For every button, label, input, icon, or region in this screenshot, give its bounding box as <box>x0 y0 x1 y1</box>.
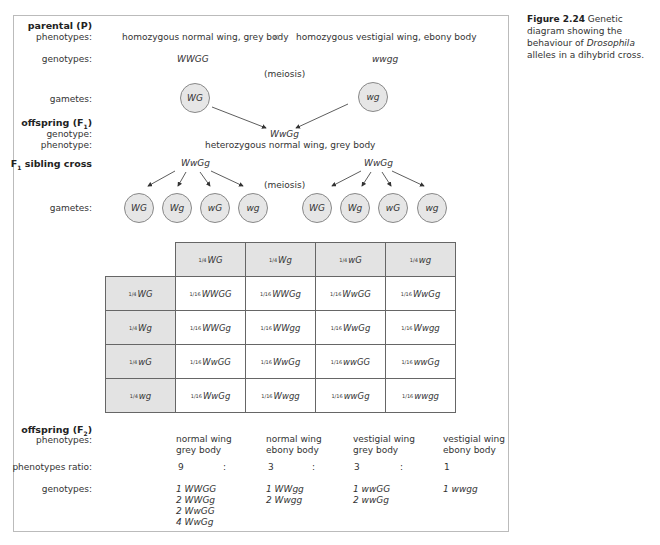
gamete-circle-parent2: wg <box>358 82 388 112</box>
meiosis-label-1: (meiosis) <box>264 69 305 80</box>
f2-class2-ratio: 3 <box>354 462 360 473</box>
f2-class0-genotype-2: 2 WwGG <box>176 506 215 517</box>
f2-class0-genotype-3: 4 WwGg <box>176 517 214 528</box>
gametes-label-2: gametes: <box>0 203 92 214</box>
f2-class2-genotype-0: 1 wwGG <box>353 484 390 495</box>
f2-class3-phenotype-2: ebony body <box>443 445 496 456</box>
punnett-cell: 1/16Wwgg <box>386 311 456 345</box>
gamete-right-0: WG <box>302 193 332 223</box>
f2-phenotypes-label: phenotypes: <box>0 435 92 446</box>
f1-genotype: WwGg <box>270 129 299 140</box>
f2-class3-genotype-0: 1 wwgg <box>443 484 478 495</box>
punnett-cell: 1/16WwGg <box>316 311 386 345</box>
punnett-cell: 1/16WwGg <box>246 345 316 379</box>
row-header-2: 1/4wG <box>106 345 176 379</box>
f2-class0-phenotype-2: grey body <box>176 445 221 456</box>
row-header-1: 1/4Wg <box>106 311 176 345</box>
punnett-cell: 1/16wwGg <box>386 345 456 379</box>
figure-number: Figure 2.24 <box>527 14 585 24</box>
punnett-row: 1/4WG 1/16WWGG 1/16WWGg 1/16WwGG 1/16WwG… <box>106 277 456 311</box>
gametes-label-1: gametes: <box>0 94 92 105</box>
f1-genotype-label: genotype: <box>0 129 92 140</box>
col-header-3: 1/4wg <box>386 243 456 277</box>
punnett-cell: 1/16wwGg <box>316 379 386 413</box>
f2-class3-ratio: 1 <box>444 462 450 473</box>
gamete-right-1: Wg <box>340 193 370 223</box>
punnett-row: 1/4Wg 1/16WWGg 1/16WWgg 1/16WwGg 1/16Wwg… <box>106 311 456 345</box>
f2-ratio-label: phenotypes ratio: <box>0 462 92 473</box>
figure-caption: Figure 2.24 Genetic diagram showing the … <box>527 13 659 61</box>
caption-text-2: alleles in a dihybrid cross. <box>527 50 644 60</box>
ratio-sep-0: : <box>223 462 226 473</box>
sibling-cross-heading: F1 sibling cross <box>0 158 92 173</box>
punnett-header-row: 1/4WG 1/4Wg 1/4wG 1/4wg <box>106 243 456 277</box>
punnett-cell: 1/16WwGg <box>176 379 246 413</box>
f2-class1-phenotype-1: normal wing <box>266 434 322 445</box>
f2-class1-genotype-1: 2 Wwgg <box>266 495 302 506</box>
punnett-cell: 1/16WWGg <box>176 311 246 345</box>
f2-genotypes-label: genotypes: <box>0 484 92 495</box>
gamete-left-0: WG <box>124 193 154 223</box>
col-header-2: 1/4wG <box>316 243 386 277</box>
punnett-row: 1/4wg 1/16WwGg 1/16Wwgg 1/16wwGg 1/16wwg… <box>106 379 456 413</box>
gamete-left-3: wg <box>238 193 268 223</box>
meiosis-label-2: (meiosis) <box>264 180 305 191</box>
sibling-left-parent: WwGg <box>181 158 210 169</box>
sibling-right-parent: WwGg <box>364 158 393 169</box>
punnett-cell: 1/16WWGG <box>176 277 246 311</box>
col-header-1: 1/4Wg <box>246 243 316 277</box>
ratio-sep-1: : <box>312 462 315 473</box>
f2-class1-genotype-0: 1 WWgg <box>266 484 304 495</box>
parental-heading: parental (P) <box>0 20 92 31</box>
cross-symbol: × <box>272 32 280 43</box>
punnett-cell: 1/16WwGG <box>316 277 386 311</box>
punnett-row: 1/4wG 1/16WwGG 1/16WwGg 1/16wwGG 1/16wwG… <box>106 345 456 379</box>
parent1-phenotype: homozygous normal wing, grey body <box>122 32 289 43</box>
f1-phenotype: heterozygous normal wing, grey body <box>205 140 375 151</box>
parent2-genotype: wwgg <box>372 54 398 65</box>
f2-class1-phenotype-2: ebony body <box>266 445 319 456</box>
f2-class0-phenotype-1: normal wing <box>176 434 232 445</box>
punnett-cell: 1/16wwgg <box>386 379 456 413</box>
punnett-cell: 1/16WWgg <box>246 311 316 345</box>
f2-class2-phenotype-2: grey body <box>353 445 398 456</box>
gamete-left-2: wG <box>200 193 230 223</box>
f2-class0-genotype-0: 1 WWGG <box>176 484 216 495</box>
f2-class3-phenotype-1: vestigial wing <box>443 434 505 445</box>
gamete-right-3: wg <box>417 193 447 223</box>
punnett-square: 1/4WG 1/4Wg 1/4wG 1/4wg 1/4WG 1/16WWGG 1… <box>105 242 456 413</box>
parent2-phenotype: homozygous vestigial wing, ebony body <box>296 32 477 43</box>
phenotypes-label: phenotypes: <box>0 32 92 43</box>
f2-class1-ratio: 3 <box>268 462 274 473</box>
gamete-left-1: Wg <box>162 193 192 223</box>
row-header-0: 1/4WG <box>106 277 176 311</box>
punnett-corner <box>106 243 176 277</box>
punnett-cell: 1/16WWGg <box>246 277 316 311</box>
punnett-cell: 1/16WwGg <box>386 277 456 311</box>
f2-class2-phenotype-1: vestigial wing <box>353 434 415 445</box>
f2-class0-ratio: 9 <box>178 462 184 473</box>
caption-italic: Drosophila <box>587 38 635 48</box>
f1-phenotype-label: phenotype: <box>0 140 92 151</box>
ratio-sep-2: : <box>400 462 403 473</box>
punnett-cell: 1/16Wwgg <box>246 379 316 413</box>
col-header-0: 1/4WG <box>176 243 246 277</box>
gamete-right-2: wG <box>378 193 408 223</box>
f2-class0-genotype-1: 2 WWGg <box>176 495 215 506</box>
f2-class2-genotype-1: 2 wwGg <box>353 495 389 506</box>
punnett-cell: 1/16WwGG <box>176 345 246 379</box>
punnett-cell: 1/16wwGG <box>316 345 386 379</box>
gamete-circle-parent1: WG <box>180 83 210 113</box>
row-header-3: 1/4wg <box>106 379 176 413</box>
parent1-genotype: WWGG <box>177 54 209 65</box>
genotypes-label: genotypes: <box>0 54 92 65</box>
